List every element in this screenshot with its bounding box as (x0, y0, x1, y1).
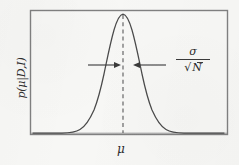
x-axis-label: μ (117, 142, 125, 156)
sigma-over-sqrt-n-annotation: σ √N (176, 46, 210, 75)
sigma-numerator: σ (176, 46, 210, 58)
figure-container: p(μ|D,I) μ σ √N (0, 0, 239, 165)
y-axis-label-wrapper: p(μ|D,I) (10, 36, 32, 120)
left-width-arrow (88, 62, 121, 68)
right-width-arrow (133, 62, 166, 68)
gaussian-plot (0, 0, 239, 165)
fraction-bar (176, 59, 210, 60)
sqrt-denominator: √N (176, 61, 210, 75)
sqrt-icon: √ (184, 61, 191, 74)
sqrt-overbar (197, 62, 203, 63)
y-axis-label: p(μ|D,I) (15, 57, 28, 98)
sqrt-radicand-wrapper: N (191, 61, 202, 75)
